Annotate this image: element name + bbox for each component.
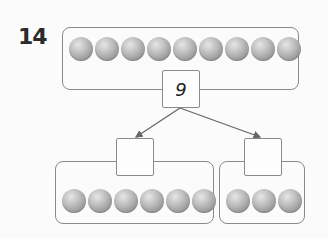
arrow-left-icon: [136, 108, 180, 137]
ball: [114, 189, 138, 213]
ball: [278, 189, 302, 213]
whole-number-box[interactable]: 9: [162, 70, 200, 108]
ball: [166, 189, 190, 213]
arrow-right-icon: [180, 108, 260, 137]
part-right-balls: [226, 189, 302, 213]
part-left-balls: [62, 189, 216, 213]
ball: [192, 189, 216, 213]
ball: [226, 189, 250, 213]
part-right-answer-box[interactable]: [244, 138, 282, 176]
ball: [62, 189, 86, 213]
ball: [252, 189, 276, 213]
ball: [140, 189, 164, 213]
ball: [88, 189, 112, 213]
part-left-answer-box[interactable]: [116, 138, 154, 176]
